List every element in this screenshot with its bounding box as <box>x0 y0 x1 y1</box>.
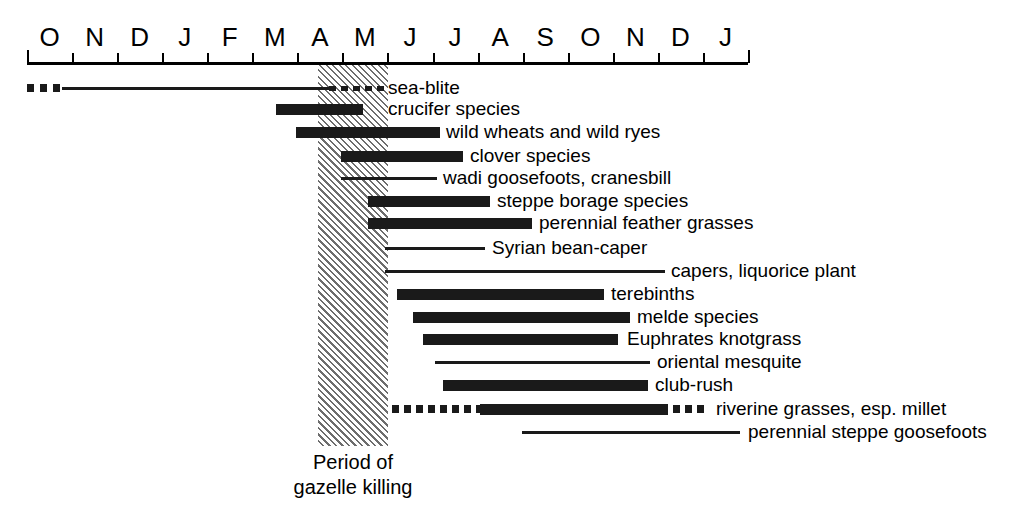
axis-tick-5 <box>252 53 254 63</box>
gantt-chart-figure: ONDJFMAMJJASONDJ sea-blitecrucifer speci… <box>0 0 1021 521</box>
taxon-label: club-rush <box>655 374 733 396</box>
band-caption: Period of gazelle killing <box>253 450 453 500</box>
bar-segment-dotted <box>673 405 708 413</box>
taxon-label: crucifer species <box>388 98 520 120</box>
bar-segment <box>385 247 485 250</box>
taxon-label: wild wheats and wild ryes <box>446 121 660 143</box>
taxon-row: perennial steppe goosefoots <box>0 422 1021 444</box>
axis-tick-11 <box>523 53 525 63</box>
taxon-label: perennial feather grasses <box>539 212 753 234</box>
month-label-0: O <box>27 22 72 52</box>
bar-segment <box>368 218 532 229</box>
taxon-label: capers, liquorice plant <box>671 260 856 282</box>
bar-segment <box>522 431 740 434</box>
axis-tick-1 <box>72 53 74 63</box>
taxon-row: crucifer species <box>0 99 1021 121</box>
month-label-1: N <box>72 22 117 52</box>
axis-tick-13 <box>613 53 615 63</box>
month-axis: ONDJFMAMJJASONDJ <box>27 22 748 66</box>
month-label-15: J <box>703 22 748 52</box>
bar-segment <box>423 334 618 345</box>
axis-tick-4 <box>207 53 209 63</box>
taxon-row: terebinths <box>0 284 1021 306</box>
taxon-row: perennial feather grasses <box>0 213 1021 235</box>
axis-tick-3 <box>162 53 164 63</box>
taxon-label: clover species <box>470 145 590 167</box>
month-label-2: D <box>117 22 162 52</box>
taxon-label: melde species <box>637 306 758 328</box>
taxon-row: clover species <box>0 146 1021 168</box>
bar-segment-dotted <box>329 86 385 91</box>
month-label-11: S <box>523 22 568 52</box>
bar-segment <box>435 361 650 364</box>
taxon-label: Euphrates knotgrass <box>627 328 801 350</box>
axis-tick-14 <box>658 53 660 63</box>
taxon-row: Euphrates knotgrass <box>0 329 1021 351</box>
taxon-row: riverine grasses, esp. millet <box>0 399 1021 421</box>
taxon-label: sea-blite <box>388 77 460 99</box>
bar-segment <box>341 177 437 180</box>
taxon-label: perennial steppe goosefoots <box>748 421 987 443</box>
bar-segment <box>385 270 665 273</box>
bar-segment <box>397 289 604 300</box>
taxon-label: terebinths <box>611 283 694 305</box>
taxon-label: steppe borage species <box>497 190 688 212</box>
band-caption-line1: Period of <box>253 450 453 475</box>
month-label-10: A <box>478 22 523 52</box>
taxon-row: club-rush <box>0 375 1021 397</box>
bar-segment <box>443 380 648 391</box>
bar-segment <box>413 312 630 323</box>
axis-tick-10 <box>478 53 480 63</box>
bar-segment <box>480 404 668 415</box>
band-caption-line2: gazelle killing <box>253 475 453 500</box>
month-label-7: M <box>342 22 387 52</box>
month-label-13: N <box>613 22 658 52</box>
taxon-row: oriental mesquite <box>0 352 1021 374</box>
bar-segment <box>296 127 440 138</box>
bar-segment <box>368 196 490 207</box>
taxon-row: wadi goosefoots, cranesbill <box>0 168 1021 190</box>
taxon-row: melde species <box>0 307 1021 329</box>
bar-segment-dotted <box>27 84 62 92</box>
axis-tick-6 <box>297 53 299 63</box>
taxon-row: sea-blite <box>0 78 1021 100</box>
month-label-5: M <box>252 22 297 52</box>
month-label-8: J <box>387 22 432 52</box>
month-label-4: F <box>207 22 252 52</box>
bar-segment <box>276 104 363 115</box>
axis-tick-9 <box>433 53 435 63</box>
taxon-label: oriental mesquite <box>657 351 802 373</box>
axis-tick-8 <box>387 53 389 63</box>
taxon-label: wadi goosefoots, cranesbill <box>443 167 671 189</box>
taxon-row: steppe borage species <box>0 191 1021 213</box>
axis-tick-15 <box>703 53 705 63</box>
bar-segment-dotted <box>392 405 480 413</box>
taxon-label: riverine grasses, esp. millet <box>716 398 946 420</box>
month-label-14: D <box>658 22 703 52</box>
axis-tick-0 <box>27 50 29 63</box>
axis-tick-7 <box>342 53 344 63</box>
bar-segment <box>341 151 463 162</box>
axis-tick-12 <box>568 53 570 63</box>
month-label-9: J <box>433 22 478 52</box>
taxon-row: Syrian bean-caper <box>0 238 1021 260</box>
month-label-12: O <box>568 22 613 52</box>
taxon-row: wild wheats and wild ryes <box>0 122 1021 144</box>
bar-segment <box>62 87 329 90</box>
month-label-6: A <box>297 22 342 52</box>
month-label-3: J <box>162 22 207 52</box>
taxon-label: Syrian bean-caper <box>492 237 647 259</box>
axis-tick-2 <box>117 53 119 63</box>
axis-tick-16 <box>748 50 750 63</box>
taxon-row: capers, liquorice plant <box>0 261 1021 283</box>
